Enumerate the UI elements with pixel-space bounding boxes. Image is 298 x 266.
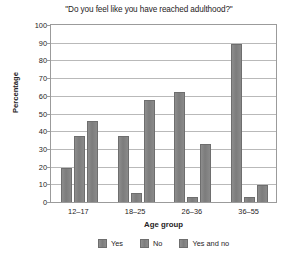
bar	[231, 44, 242, 202]
bar-group	[221, 25, 278, 202]
legend-item: Yes and no	[179, 239, 229, 248]
bar	[87, 121, 98, 202]
bar	[131, 193, 142, 202]
y-axis-tick-label: 80	[25, 56, 47, 65]
bar	[61, 168, 72, 203]
chart-legend: YesNoYes and no	[50, 239, 277, 248]
y-axis-tick-label: 30	[25, 144, 47, 153]
bar-group	[165, 25, 222, 202]
y-axis-tick-label: 40	[25, 127, 47, 136]
bar	[174, 92, 185, 202]
x-axis-tick-label: 12–17	[50, 207, 107, 216]
bar	[144, 100, 155, 202]
y-axis-tick-label: 0	[25, 198, 47, 207]
bar-chart-figure: "Do you feel like you have reached adult…	[0, 0, 298, 266]
y-axis-tick-label: 50	[25, 109, 47, 118]
bar-group	[108, 25, 165, 202]
y-axis-label: Percentage	[11, 58, 20, 128]
legend-swatch-icon	[179, 239, 188, 248]
x-axis-tick-label: 26–36	[164, 207, 221, 216]
y-axis-tick-label: 20	[25, 162, 47, 171]
x-axis-tick-label: 36–55	[220, 207, 277, 216]
bar	[244, 197, 255, 202]
bar	[257, 185, 268, 202]
chart-title: "Do you feel like you have reached adult…	[0, 5, 298, 14]
legend-swatch-icon	[140, 239, 149, 248]
bar	[187, 197, 198, 202]
bar	[118, 136, 129, 202]
legend-swatch-icon	[98, 239, 107, 248]
y-axis-tick-label: 70	[25, 74, 47, 83]
legend-label: No	[153, 239, 162, 248]
y-axis-tick-label: 10	[25, 180, 47, 189]
y-axis-tick-label: 90	[25, 38, 47, 47]
bar	[200, 144, 211, 202]
x-axis-label: Age group	[50, 220, 277, 229]
legend-item: Yes	[98, 239, 123, 248]
legend-label: Yes	[111, 239, 123, 248]
x-axis-tick-label: 18–25	[107, 207, 164, 216]
plot-area	[50, 24, 277, 203]
bar-group	[51, 25, 108, 202]
y-axis-tick-label: 60	[25, 91, 47, 100]
y-axis-tick-label: 100	[25, 21, 47, 30]
legend-item: No	[140, 239, 162, 248]
legend-label: Yes and no	[192, 239, 229, 248]
bar	[74, 136, 85, 202]
